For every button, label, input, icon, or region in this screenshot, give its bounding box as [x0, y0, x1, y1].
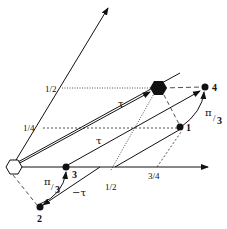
point-4: [202, 84, 209, 91]
origin-hexagon-icon: [6, 160, 22, 174]
dash-hex-4: [162, 87, 203, 88]
guide-x-threequarter: [157, 132, 181, 167]
vector-origin-hex: [18, 92, 150, 164]
point-4-label: 4: [212, 82, 217, 93]
rotation-label-right: π / 3: [205, 107, 222, 126]
tau-upper-label: τ: [118, 98, 124, 109]
x-tick-threequarter: 3/4: [148, 171, 160, 181]
dash-origin-2: [13, 175, 37, 205]
point-3: [63, 164, 70, 171]
point-2-label: 2: [37, 213, 42, 224]
y-tick-quarter: 1/4: [23, 123, 35, 133]
neg-tau-label: −τ: [72, 187, 86, 198]
slash-right: /: [213, 113, 216, 123]
pi-right: π: [205, 107, 212, 118]
x-tick-half: 1/2: [105, 182, 117, 192]
lattice-diagram: 1 2 3 4 1/2 1/4 1/2 3/4 τ τ −τ π / 3 π /…: [0, 0, 227, 229]
rotation-label-left: π / 3: [44, 176, 60, 195]
arc-1-4: [181, 92, 204, 127]
pi-left: π: [44, 176, 51, 187]
tau-lower-label: τ: [96, 135, 102, 146]
y-tick-half: 1/2: [45, 84, 57, 94]
vector-x-1: [115, 130, 179, 167]
slash-left: /: [51, 182, 54, 192]
filled-hexagon-icon: [150, 81, 167, 95]
three-right: 3: [217, 115, 222, 126]
point-1: [177, 124, 184, 131]
point-1-label: 1: [186, 122, 191, 133]
three-left: 3: [55, 184, 60, 195]
point-3-label: 3: [72, 169, 77, 180]
y-axis: [13, 8, 108, 165]
point-2: [37, 204, 44, 211]
